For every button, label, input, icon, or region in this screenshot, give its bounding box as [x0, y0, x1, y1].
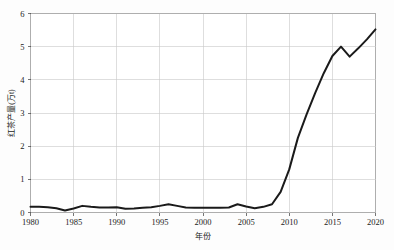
line-chart-canvas: 198019851990199520002005201020152020 012… — [0, 0, 394, 250]
y-tick-label: 6 — [20, 9, 24, 19]
x-tick-label: 2015 — [324, 217, 341, 227]
x-tick-label: 2005 — [238, 217, 255, 227]
x-tick-label: 1990 — [108, 217, 125, 227]
x-tick-label: 2020 — [367, 217, 384, 227]
y-axis-title: 红茶产量(万t) — [6, 89, 16, 137]
chart-figure: 198019851990199520002005201020152020 012… — [0, 0, 394, 250]
y-tick-label: 3 — [20, 108, 24, 118]
x-tick-label: 2000 — [195, 217, 212, 227]
y-tick-label: 0 — [20, 208, 24, 218]
x-tick-label: 1980 — [22, 217, 39, 227]
y-tick-label: 2 — [20, 141, 24, 151]
x-tick-label: 1995 — [151, 217, 168, 227]
x-tick-label: 1985 — [65, 217, 82, 227]
x-axis-title: 年份 — [195, 231, 211, 241]
y-tick-label: 5 — [20, 42, 24, 52]
x-tick-label: 2010 — [281, 217, 298, 227]
y-tick-label: 1 — [20, 174, 24, 184]
